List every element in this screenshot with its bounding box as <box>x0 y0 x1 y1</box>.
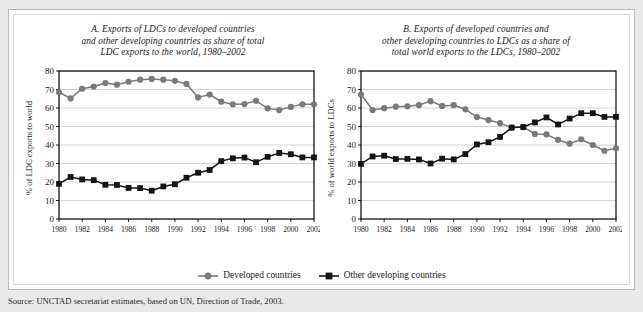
legend-label-developed: Developed countries <box>223 271 300 280</box>
svg-text:50: 50 <box>45 121 55 131</box>
chart-b-title-line-3: total world exports to the LDCs, 1980–20… <box>325 47 627 59</box>
circle-marker-icon <box>197 271 219 281</box>
svg-text:20: 20 <box>45 177 55 187</box>
svg-text:20: 20 <box>347 177 357 187</box>
chart-panel-a: A. Exports of LDCs to developed countrie… <box>23 10 323 258</box>
legend-item-other-developing: Other developing countries <box>318 271 446 281</box>
chart-b-svg: 0102030405060708019801982198419861988199… <box>339 65 622 245</box>
chart-a-y-axis-label: % of LDC exports to world <box>22 65 36 231</box>
svg-text:1996: 1996 <box>237 225 252 234</box>
chart-a-title-line-2: and other developing countries as share … <box>23 36 323 48</box>
svg-text:40: 40 <box>45 140 55 150</box>
svg-text:1988: 1988 <box>446 225 461 234</box>
svg-text:1998: 1998 <box>562 225 577 234</box>
svg-text:80: 80 <box>45 66 55 76</box>
chart-a-svg-holder: 0102030405060708019801982198419861988199… <box>37 65 320 245</box>
chart-a-title: A. Exports of LDCs to developed countrie… <box>23 10 323 59</box>
source-note: Source: UNCTAD secretariat estimates, ba… <box>8 296 628 312</box>
svg-text:1984: 1984 <box>98 225 113 234</box>
chart-panel-b: B. Exports of developed countries and ot… <box>325 10 627 258</box>
legend-label-other-developing: Other developing countries <box>344 271 446 280</box>
legend-item-developed: Developed countries <box>197 271 300 281</box>
svg-text:0: 0 <box>352 214 357 224</box>
svg-text:1996: 1996 <box>539 225 554 234</box>
svg-text:1994: 1994 <box>214 225 229 234</box>
source-note-text: Source: UNCTAD secretariat estimates, ba… <box>8 296 284 306</box>
svg-text:1984: 1984 <box>400 225 415 234</box>
chart-b-title-line-2: other developing countries to LDCs as a … <box>325 36 627 48</box>
svg-text:60: 60 <box>347 103 357 113</box>
chart-a-plot: % of LDC exports to world 01020304050607… <box>23 65 323 245</box>
chart-b-title-line-1: B. Exports of developed countries and <box>325 24 627 36</box>
svg-text:1982: 1982 <box>377 225 392 234</box>
svg-text:1998: 1998 <box>260 225 275 234</box>
svg-text:1980: 1980 <box>51 225 66 234</box>
svg-text:30: 30 <box>45 158 55 168</box>
svg-text:50: 50 <box>347 121 357 131</box>
chart-b-svg-holder: 0102030405060708019801982198419861988199… <box>339 65 622 245</box>
figure-frame: A. Exports of LDCs to developed countrie… <box>8 9 635 290</box>
chart-a-title-line-3: LDC exports to the world, 1980–2002 <box>23 47 323 59</box>
svg-text:1992: 1992 <box>492 225 507 234</box>
svg-text:1990: 1990 <box>469 225 484 234</box>
chart-legend: Developed countries Other developing cou… <box>9 271 634 281</box>
svg-text:2002: 2002 <box>306 225 320 234</box>
svg-text:1980: 1980 <box>353 225 368 234</box>
svg-text:60: 60 <box>45 103 55 113</box>
svg-text:1992: 1992 <box>190 225 205 234</box>
svg-text:1986: 1986 <box>423 225 438 234</box>
svg-text:2000: 2000 <box>283 225 298 234</box>
svg-text:1988: 1988 <box>144 225 159 234</box>
chart-a-svg: 0102030405060708019801982198419861988199… <box>37 65 320 245</box>
charts-container: A. Exports of LDCs to developed countrie… <box>9 10 634 258</box>
chart-b-plot: % of world exports to LDCs 0102030405060… <box>325 65 627 245</box>
svg-text:1994: 1994 <box>516 225 531 234</box>
svg-text:1986: 1986 <box>121 225 136 234</box>
svg-text:10: 10 <box>45 195 55 205</box>
svg-text:2000: 2000 <box>585 225 600 234</box>
figure-page: A. Exports of LDCs to developed countrie… <box>0 0 643 312</box>
svg-text:70: 70 <box>347 84 357 94</box>
svg-text:1990: 1990 <box>167 225 182 234</box>
svg-text:10: 10 <box>347 195 357 205</box>
svg-text:80: 80 <box>347 66 357 76</box>
chart-a-title-line-1: A. Exports of LDCs to developed countrie… <box>23 24 323 36</box>
svg-text:2002: 2002 <box>608 225 622 234</box>
square-marker-icon <box>318 271 340 281</box>
svg-text:1982: 1982 <box>75 225 90 234</box>
chart-b-y-axis-label: % of world exports to LDCs <box>324 65 338 231</box>
svg-text:70: 70 <box>45 84 55 94</box>
svg-text:0: 0 <box>50 214 55 224</box>
svg-text:40: 40 <box>347 140 357 150</box>
svg-text:30: 30 <box>347 158 357 168</box>
chart-b-title: B. Exports of developed countries and ot… <box>325 10 627 59</box>
